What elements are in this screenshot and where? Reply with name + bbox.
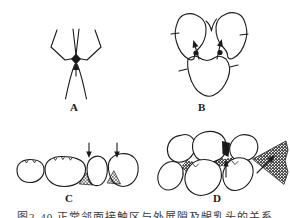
down-arrow-1 bbox=[86, 143, 92, 158]
panel-c-label: C bbox=[65, 193, 73, 204]
escape-arrow-right bbox=[217, 38, 225, 59]
figure-page: A B C D 图2-40 正常邻面接触区与外展隙及龈乳头的关系 bbox=[0, 0, 290, 218]
panel-c-drawing bbox=[12, 140, 144, 192]
panel-b-label: B bbox=[198, 102, 205, 113]
up-arrow bbox=[73, 63, 79, 77]
tooth-1 bbox=[17, 160, 44, 183]
panel-d-drawing bbox=[155, 128, 290, 198]
lower-teeth-row bbox=[158, 158, 253, 196]
panel-d-label: D bbox=[213, 193, 221, 204]
tooth-2 bbox=[45, 157, 86, 187]
upper-teeth-row bbox=[167, 131, 257, 162]
panel-a-label: A bbox=[70, 102, 78, 113]
panel-b-drawing bbox=[168, 8, 250, 100]
figure-caption: 图2-40 正常邻面接触区与外展隙及龈乳头的关系 bbox=[0, 211, 290, 218]
upper-left-tooth bbox=[171, 14, 206, 60]
midline-notch bbox=[206, 19, 217, 31]
lower-tooth bbox=[179, 56, 238, 96]
panel-a-drawing bbox=[48, 12, 118, 102]
